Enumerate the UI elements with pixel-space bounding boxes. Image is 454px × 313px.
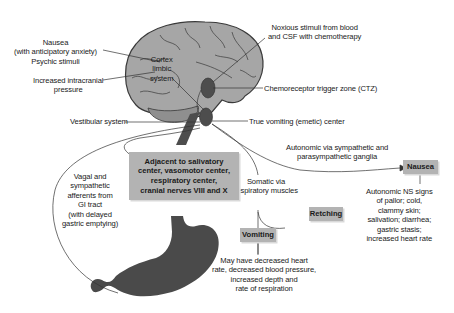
nausea-signs-label: Autonomic NS signs of pallor; cold, clam… xyxy=(366,187,433,243)
ctz-label: Chemoreceptor trigger zone (CTZ) xyxy=(264,84,377,93)
nausea-box: Nausea xyxy=(403,160,438,174)
retching-box: Retching xyxy=(309,207,343,221)
autonomic-pathway-label: Autonomic via sympathetic and parasympat… xyxy=(286,143,388,162)
vomiting-signs-label: May have decreased heart rate, decreased… xyxy=(212,256,316,294)
adjacent-centers-box: Adjacent to salivatory center, vasomotor… xyxy=(129,152,239,200)
vestibular-system-label: Vestibular system xyxy=(70,117,128,126)
nausea-psychic-label: Nausea (with anticipatory anxiety) Psych… xyxy=(14,38,97,66)
vomiting-box: Vomiting xyxy=(240,228,276,242)
cortex-limbic-label: Cortex limbic system xyxy=(150,55,173,83)
vomiting-center-nucleus xyxy=(200,108,213,126)
vagal-afferents-label: Vagal and sympathetic afferents from GI … xyxy=(62,172,118,228)
ctz-nucleus xyxy=(201,78,215,98)
brain-illustration xyxy=(126,22,264,145)
vomiting-center-label: True vomiting (emetic) center xyxy=(249,117,345,126)
somatic-pathway-label: Somatic via respiratory muscles xyxy=(234,177,298,196)
intracranial-pressure-label: Increased intracranial pressure xyxy=(33,76,103,95)
noxious-stimuli-label: Noxious stimuli from blood and CSF with … xyxy=(268,23,361,42)
